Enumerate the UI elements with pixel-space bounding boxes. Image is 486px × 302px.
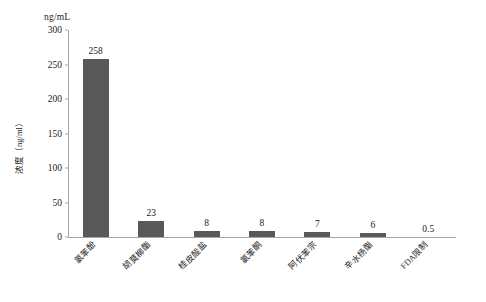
x-axis-category-label: 氯苯酚 — [68, 240, 123, 300]
bar-rect[interactable] — [83, 59, 109, 237]
bar-item[interactable]: 6 — [345, 30, 400, 237]
bar-item[interactable]: 258 — [68, 30, 123, 237]
bar-item[interactable]: 7 — [290, 30, 345, 237]
x-axis-category-label: FDA限制 — [401, 240, 456, 300]
x-axis-category-label-text: 桂皮酸盐 — [175, 238, 209, 272]
bar-value-label: 8 — [260, 218, 265, 228]
bar-series: 2582388760.5 — [68, 30, 456, 238]
bar-value-label: 0.5 — [422, 224, 434, 234]
x-axis-category-label-text: 辛水杨酯 — [341, 238, 375, 272]
x-axis-category-label: 氯苯酮 — [234, 240, 289, 300]
bar-value-label: 8 — [204, 218, 209, 228]
bar-value-label: 7 — [315, 219, 320, 229]
bar-chart-figure: ng/mL 浓度（ng/ml） 050100150200250300 25823… — [0, 0, 486, 302]
x-axis-category-label-text: FDA限制 — [397, 238, 430, 271]
plot-area: 050100150200250300 2582388760.5 — [68, 30, 456, 238]
x-axis-category-label-text: 胡莫柳酯 — [119, 238, 153, 272]
y-axis-title: 浓度（ng/ml） — [12, 101, 24, 191]
bar-item[interactable]: 8 — [179, 30, 234, 237]
bar-value-label: 258 — [89, 46, 103, 56]
bar-item[interactable]: 0.5 — [401, 30, 456, 237]
x-axis-category-label: 桂皮酸盐 — [179, 240, 234, 300]
bar-item[interactable]: 23 — [123, 30, 178, 237]
bar-item[interactable]: 8 — [234, 30, 289, 237]
bar-value-label: 6 — [370, 220, 375, 230]
x-axis-category-label: 辛水杨酯 — [345, 240, 400, 300]
x-axis-category-labels: 氯苯酚胡莫柳酯桂皮酸盐氯苯酮阿伏苯宗辛水杨酯FDA限制 — [68, 240, 456, 300]
x-axis-category-label-text: 氯苯酚 — [70, 238, 98, 266]
x-axis-category-label-text: 氯苯酮 — [237, 238, 265, 266]
x-axis-category-label: 阿伏苯宗 — [290, 240, 345, 300]
x-axis-category-label: 胡莫柳酯 — [123, 240, 178, 300]
x-axis-category-label-text: 阿伏苯宗 — [286, 238, 320, 272]
y-axis-unit-caption: ng/mL — [44, 12, 70, 22]
bar-value-label: 23 — [146, 208, 156, 218]
